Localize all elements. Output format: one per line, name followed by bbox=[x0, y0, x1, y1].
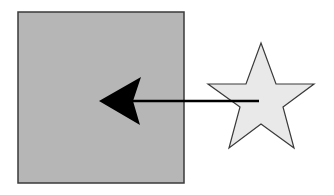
diagram-svg bbox=[0, 0, 334, 195]
diagram-canvas bbox=[0, 0, 334, 195]
star-shape bbox=[208, 43, 314, 148]
gray-square bbox=[18, 12, 184, 183]
